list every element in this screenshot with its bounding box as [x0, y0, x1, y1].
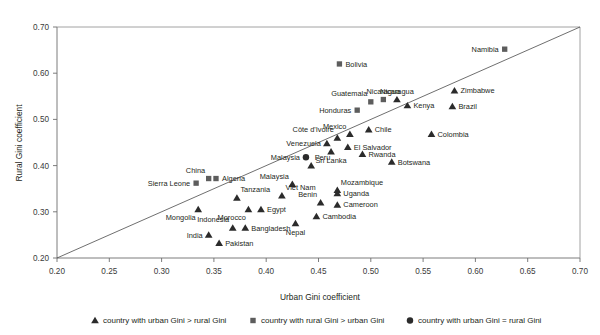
label-cameroon: Cameroon	[343, 200, 378, 209]
data-point-bolivia	[337, 61, 342, 66]
label-tanzania: Tanzania	[240, 185, 270, 194]
data-point-mozambique	[333, 186, 341, 192]
label-brazil: Brazil	[458, 102, 477, 111]
data-point-sierra-leone	[193, 180, 198, 185]
data-point-botswana	[388, 158, 396, 164]
data-point-benin	[317, 199, 325, 205]
data-point-china	[206, 176, 211, 181]
y-tick-label: 0.30	[33, 208, 49, 217]
x-tick-label: 0.55	[415, 267, 431, 276]
data-point-morocco	[245, 206, 253, 212]
label-rwanda: Rwanda	[368, 150, 396, 159]
x-tick-label: 0.30	[154, 267, 170, 276]
label-mozambique: Mozambique	[341, 178, 383, 187]
legend-label-2: country with rural Gini > urban Gini	[261, 316, 385, 325]
x-axis-ticks: 0.200.250.300.350.400.450.500.550.600.65…	[49, 258, 588, 276]
x-tick-label: 0.25	[101, 267, 117, 276]
label-benin: Benin	[298, 190, 317, 199]
x-axis-title: Urban Gini coefficient	[280, 292, 361, 302]
label-pakistan: Pakistan	[225, 239, 253, 248]
data-point-mongolia	[194, 206, 202, 212]
data-point-tanzania	[233, 194, 241, 200]
legend-marker-circle	[407, 317, 413, 323]
label-zimbabwe: Zimbabwe	[460, 86, 494, 95]
data-point-cameroon	[333, 201, 341, 207]
y-axis-ticks: 0.200.300.400.500.600.70	[33, 23, 57, 263]
label-colombia: Colombia	[437, 130, 469, 139]
label-malaysia: Malaysia	[260, 172, 290, 181]
data-point-zimbabwe	[451, 87, 459, 93]
label-morocco: Morocco	[218, 213, 246, 222]
data-point-cambodia	[313, 213, 321, 219]
x-tick-label: 0.70	[572, 267, 588, 276]
x-tick-label: 0.35	[206, 267, 222, 276]
chart-legend: country with urban Gini > rural Ginicoun…	[91, 316, 541, 325]
scatter-chart: 0.200.250.300.350.400.450.500.550.600.65…	[0, 0, 600, 335]
label-bangladesh: Bangladesh	[251, 224, 290, 233]
label-botswana: Botswana	[398, 158, 431, 167]
plot-area: 0.200.250.300.350.400.450.500.550.600.65…	[0, 0, 600, 335]
y-tick-label: 0.70	[33, 23, 49, 32]
label-egypt: Egypt	[267, 205, 286, 214]
label-cambodia: Cambodia	[322, 212, 357, 221]
label-chile: Chile	[375, 125, 392, 134]
label-nicaragua: Nicaragua	[367, 87, 402, 96]
label-mongolia: Mongolia	[166, 213, 197, 222]
data-point-bangladesh	[241, 224, 249, 230]
data-point-colombia	[428, 131, 436, 137]
data-point-el-salvador	[344, 143, 352, 149]
data-point-namibia	[502, 47, 507, 52]
y-tick-label: 0.40	[33, 162, 49, 171]
label-malaysia: Malaysia	[271, 153, 301, 162]
x-tick-label: 0.50	[363, 267, 379, 276]
label-china: China	[186, 166, 206, 175]
label-kenya: Kenya	[413, 101, 435, 110]
label-sri-lanka: Sri Lanka	[315, 156, 347, 165]
x-tick-label: 0.45	[311, 267, 327, 276]
data-point-honduras	[355, 107, 360, 112]
data-point-india	[205, 231, 213, 237]
data-point-venezuela	[323, 140, 331, 146]
label-sierra-leone: Sierra Leone	[148, 179, 190, 188]
y-tick-label: 0.50	[33, 115, 49, 124]
y-axis-title: Rural Gini coefficient	[14, 104, 24, 182]
label-mexico: Mexico	[323, 122, 346, 131]
x-tick-label: 0.20	[49, 267, 65, 276]
x-tick-label: 0.60	[467, 267, 483, 276]
data-point-nepal	[292, 220, 300, 226]
data-point-pakistan	[215, 240, 223, 246]
data-point-labels: MongoliaIndiaIndonesiaBangladeshPakistan…	[148, 45, 500, 248]
data-point-indonesia	[229, 224, 237, 230]
legend-marker-triangle	[91, 317, 99, 323]
label-india: India	[187, 231, 204, 240]
data-point-mexico	[346, 131, 354, 137]
legend-label-3: country with urban Gini = rural Gini	[418, 316, 542, 325]
label-bolivia: Bolivia	[345, 60, 368, 69]
label-nepal: Nepal	[286, 228, 306, 237]
y-tick-label: 0.20	[33, 254, 49, 263]
data-point-algeria	[213, 176, 218, 181]
label-namibia: Namibia	[472, 45, 500, 54]
data-point-kenya	[404, 102, 412, 108]
data-point-guatemala	[368, 99, 373, 104]
legend-marker-square	[250, 318, 255, 323]
x-tick-label: 0.65	[520, 267, 536, 276]
label-uganda: Uganda	[343, 189, 370, 198]
label-venezuela: Venezuela	[286, 139, 321, 148]
data-point-chile	[365, 126, 373, 132]
label-honduras: Honduras	[319, 106, 351, 115]
data-point-malaysia	[303, 154, 309, 160]
data-point-nicaragua	[381, 97, 386, 102]
data-point-egypt	[257, 206, 265, 212]
legend-label-1: country with urban Gini > rural Gini	[103, 316, 227, 325]
y-tick-label: 0.60	[33, 69, 49, 78]
label-guatemala: Guatemala	[331, 89, 368, 98]
data-point-brazil	[449, 103, 457, 109]
data-point-nicaragua	[393, 96, 401, 102]
data-point-peru	[307, 162, 315, 168]
x-tick-label: 0.40	[258, 267, 274, 276]
label-algeria: Algeria	[222, 174, 246, 183]
data-point-viet-nam	[278, 192, 286, 198]
